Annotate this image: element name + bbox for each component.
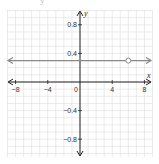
- y-axis-label: y: [83, 9, 88, 18]
- y-tick-label: 0.4: [67, 50, 77, 57]
- y-tick-label: −0.8: [63, 136, 77, 143]
- x-axis-label: x: [146, 71, 151, 80]
- x-tick-label: 8: [142, 86, 146, 93]
- x-tick-label: 0: [74, 86, 78, 93]
- x-tick-label: 4: [110, 86, 114, 93]
- chart: yx−8−40480.80.4−0.4−0.8: [0, 0, 159, 164]
- open-circle-point: [126, 58, 131, 63]
- y-tick-label: 0.8: [67, 21, 77, 28]
- x-tick-label: −8: [12, 86, 20, 93]
- x-tick-label: −4: [44, 86, 52, 93]
- y-tick-label: −0.4: [63, 107, 77, 114]
